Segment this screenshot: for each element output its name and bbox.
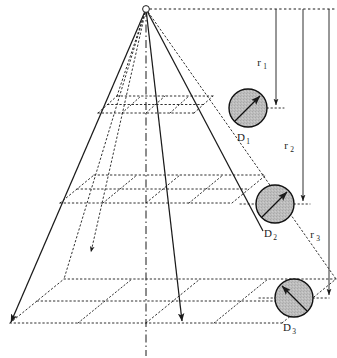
detector-d1-subscript: 1 (246, 137, 250, 146)
distance-marker-r3: r 3 (310, 9, 329, 295)
detector-d2: D 2 (240, 185, 310, 242)
ray-mid-arrowhead (91, 9, 146, 252)
detector-d3: D 3 (259, 279, 329, 336)
distance-r2-subscript: 2 (290, 145, 294, 154)
distance-r3-subscript: 3 (316, 234, 320, 243)
ray-center-right (146, 9, 182, 321)
cone-beam-geometry-figure: D 1 D 2 D 3 r 1 r (0, 0, 337, 358)
detector-d3-label: D (283, 321, 291, 333)
point-source (143, 6, 150, 13)
distance-r2-label: r (284, 139, 288, 151)
ray-left (11, 9, 146, 322)
detector-d2-label: D (264, 227, 272, 239)
distance-r1-label: r (257, 56, 261, 68)
distance-marker-r2: r 2 (284, 9, 303, 201)
distance-r1-subscript: 1 (263, 62, 267, 71)
detector-d1-label: D (237, 131, 245, 143)
cone-edge-rays-dotted (64, 9, 336, 279)
distance-marker-r1: r 1 (257, 9, 276, 105)
distance-r3-label: r (310, 228, 314, 240)
diagram-canvas: D 1 D 2 D 3 r 1 r (0, 0, 337, 358)
detector-d2-subscript: 2 (273, 233, 277, 242)
detector-d3-subscript: 3 (292, 327, 296, 336)
